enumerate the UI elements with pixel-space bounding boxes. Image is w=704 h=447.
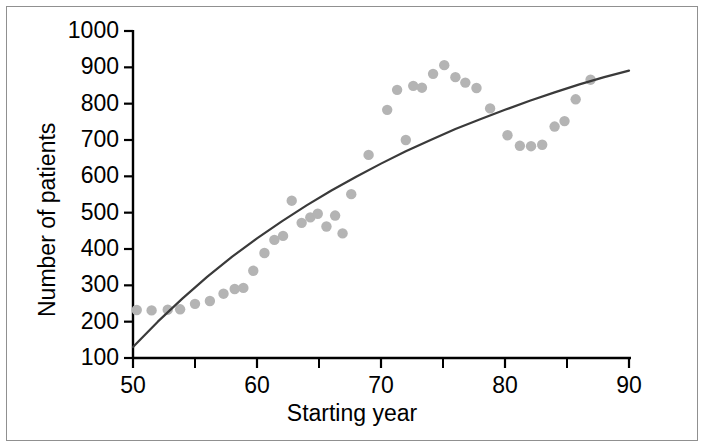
data-point: [259, 248, 269, 258]
data-point: [559, 116, 569, 126]
data-point: [238, 283, 248, 293]
y-tick-label: 1000: [68, 19, 119, 42]
x-tick-label: 60: [217, 374, 297, 397]
data-point: [537, 140, 547, 150]
data-point: [428, 69, 438, 79]
data-point: [363, 150, 373, 160]
y-tick-label: 800: [81, 92, 119, 115]
data-point: [346, 189, 356, 199]
data-point: [278, 231, 288, 241]
data-point: [450, 72, 460, 82]
scatter-series-0: [132, 60, 596, 316]
data-point: [515, 141, 525, 151]
x-axis-title: Starting year: [0, 400, 704, 427]
data-point: [321, 221, 331, 231]
data-point: [460, 77, 470, 87]
data-point: [401, 135, 411, 145]
y-tick-label: 300: [81, 273, 119, 296]
y-tick-label: 500: [81, 201, 119, 224]
data-point: [248, 266, 258, 276]
chart-figure: 1002003004005006007008009001000 50607080…: [0, 0, 704, 447]
data-point: [205, 296, 215, 306]
y-axis-title: Number of patients: [34, 123, 61, 317]
x-tick-label: 80: [465, 374, 545, 397]
x-tick-label: 50: [93, 374, 173, 397]
data-point: [502, 130, 512, 140]
data-point: [570, 94, 580, 104]
data-point: [417, 82, 427, 92]
data-point: [485, 103, 495, 113]
data-point: [392, 85, 402, 95]
y-tick-label: 100: [81, 346, 119, 369]
y-tick-label: 700: [81, 128, 119, 151]
data-point: [218, 288, 228, 298]
data-point: [408, 81, 418, 91]
data-point: [296, 218, 306, 228]
data-point: [287, 195, 297, 205]
y-tick-label: 600: [81, 164, 119, 187]
y-tick-label: 400: [81, 237, 119, 260]
data-point: [146, 305, 156, 315]
trend-line-series-1: [133, 71, 629, 348]
x-tick-label: 90: [589, 374, 669, 397]
x-tick-label: 70: [341, 374, 421, 397]
data-point: [382, 105, 392, 115]
data-point: [190, 299, 200, 309]
data-point: [132, 305, 142, 315]
data-point: [175, 304, 185, 314]
data-point: [439, 60, 449, 70]
data-point: [313, 209, 323, 219]
data-point: [330, 210, 340, 220]
data-point: [549, 121, 559, 131]
y-tick-label: 900: [81, 55, 119, 78]
data-point: [526, 141, 536, 151]
data-point: [337, 228, 347, 238]
data-point: [471, 83, 481, 93]
y-tick-label: 200: [81, 310, 119, 333]
